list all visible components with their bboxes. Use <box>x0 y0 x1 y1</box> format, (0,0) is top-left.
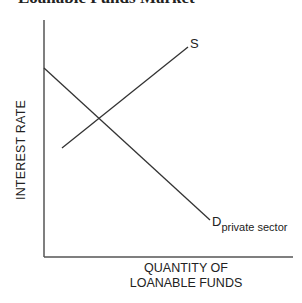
supply-label: S <box>190 36 199 51</box>
x-axis-label-line2: LOANABLE FUNDS <box>126 276 246 291</box>
plot-area <box>0 0 302 303</box>
x-axis-label: QUANTITY OF LOANABLE FUNDS <box>126 261 246 291</box>
demand-label: Dprivate sector <box>212 214 287 229</box>
supply-curve <box>62 47 188 148</box>
demand-label-sub: private sector <box>221 221 287 233</box>
y-axis-label: INTEREST RATE <box>14 100 28 200</box>
demand-label-main: D <box>212 214 221 229</box>
demand-curve <box>44 68 210 220</box>
x-axis-label-line1: QUANTITY OF <box>126 261 246 276</box>
